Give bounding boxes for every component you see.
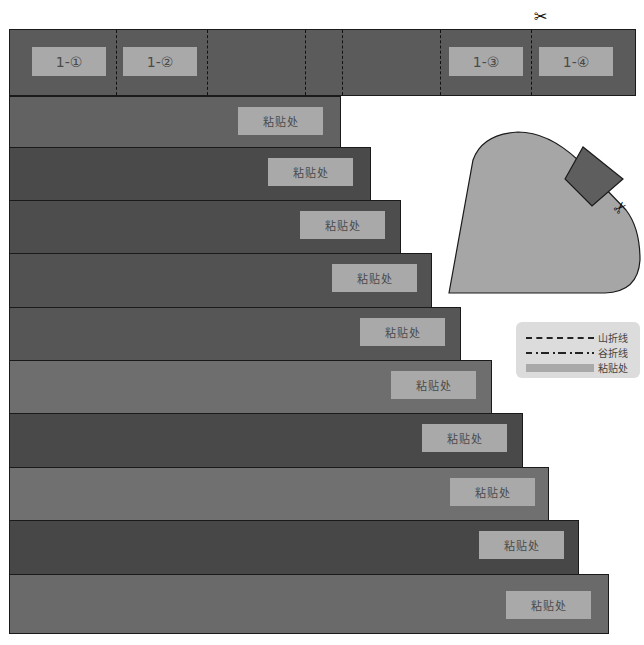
glue-area: 粘贴处 — [479, 531, 564, 559]
mountain-fold-line — [342, 30, 343, 95]
mountain-fold-line — [440, 30, 441, 95]
legend-label: 粘贴处 — [598, 360, 628, 375]
glue-area: 粘贴处 — [391, 371, 476, 399]
glue-area: 粘贴处 — [238, 107, 323, 135]
mountain-fold-line — [116, 30, 117, 95]
dash-dot-line-icon — [526, 352, 594, 354]
top-strip: 1-① 1-② 1-③ 1-④ — [9, 29, 636, 96]
strip-8: 粘贴处 — [9, 467, 549, 521]
dashed-line-icon — [526, 337, 594, 339]
strip-6: 粘贴处 — [9, 360, 492, 414]
glue-area: 粘贴处 — [332, 264, 417, 292]
glue-area: 粘贴处 — [268, 158, 353, 186]
strip-5: 粘贴处 — [9, 307, 461, 361]
strip-7: 粘贴处 — [9, 413, 523, 468]
legend: 山折线 谷折线 粘贴处 — [516, 322, 640, 378]
legend-mountain-fold: 山折线 — [526, 330, 628, 345]
legend-label: 山折线 — [598, 330, 628, 345]
strip-2: 粘贴处 — [9, 147, 371, 201]
strip-9: 粘贴处 — [9, 520, 579, 575]
mountain-fold-line — [305, 30, 306, 95]
mountain-fold-line — [531, 30, 532, 95]
strip-4: 粘贴处 — [9, 253, 432, 308]
label-1-1: 1-① — [32, 47, 106, 76]
strip-1: 粘贴处 — [9, 96, 341, 148]
glue-swatch-icon — [526, 364, 594, 372]
mountain-fold-line — [207, 30, 208, 95]
strip-10: 粘贴处 — [9, 574, 609, 634]
legend-glue-area: 粘贴处 — [526, 360, 628, 375]
glue-area: 粘贴处 — [360, 318, 445, 346]
strip-3: 粘贴处 — [9, 200, 401, 254]
glue-area: 粘贴处 — [300, 211, 385, 239]
label-1-4: 1-④ — [539, 47, 613, 76]
glue-area: 粘贴处 — [450, 478, 535, 506]
glue-area: 粘贴处 — [422, 424, 507, 452]
legend-valley-fold: 谷折线 — [526, 345, 628, 360]
cone-shape — [449, 132, 640, 293]
label-1-2: 1-② — [123, 47, 197, 76]
legend-label: 谷折线 — [598, 345, 628, 360]
scissors-icon: ✂ — [534, 9, 547, 25]
label-1-3: 1-③ — [449, 47, 523, 76]
glue-area: 粘贴处 — [506, 591, 591, 619]
